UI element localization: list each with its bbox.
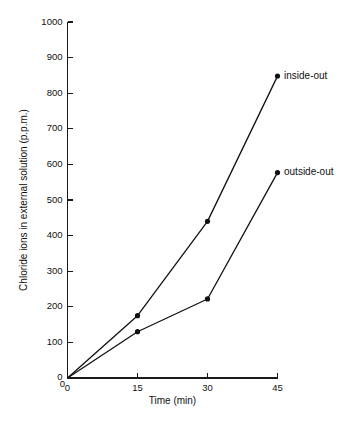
origin-label: 0 (60, 378, 65, 389)
y-tick-label-1000: 1000 (41, 16, 62, 27)
series-line-inside-out (68, 76, 278, 378)
y-axis-tick-labels: 01002003004005006007008009001000 (41, 16, 62, 382)
x-tick-label-30: 30 (202, 382, 213, 393)
data-point-outside-out-30 (205, 296, 210, 301)
data-point-inside-out-45 (275, 74, 280, 79)
series-labels: inside-outoutside-out (284, 70, 334, 177)
y-tick-label-700: 700 (47, 122, 63, 133)
series-label-inside-out: inside-out (284, 70, 328, 81)
x-tick-label-15: 15 (132, 382, 143, 393)
axis-tick-marks (68, 22, 278, 378)
y-tick-label-200: 200 (47, 300, 63, 311)
x-axis-tick-labels: 0153045 (65, 382, 283, 393)
data-point-inside-out-30 (205, 219, 210, 224)
x-axis-title: Time (min) (149, 395, 196, 406)
y-tick-label-300: 300 (47, 265, 63, 276)
y-axis-title: Chloride ions in external solution (p.p.… (18, 109, 29, 291)
y-tick-label-500: 500 (47, 194, 63, 205)
y-tick-label-600: 600 (47, 158, 63, 169)
x-tick-label-0: 0 (65, 382, 70, 393)
chart-figure: 01002003004005006007008009001000 0153045… (0, 0, 358, 429)
series-label-outside-out: outside-out (284, 166, 334, 177)
series-markers (135, 74, 280, 335)
y-tick-label-400: 400 (47, 229, 63, 240)
y-tick-label-800: 800 (47, 87, 63, 98)
data-point-outside-out-15 (135, 329, 140, 334)
series-lines (68, 76, 278, 378)
x-tick-label-45: 45 (272, 382, 283, 393)
data-point-outside-out-45 (275, 170, 280, 175)
data-point-inside-out-15 (135, 313, 140, 318)
line-chart: 01002003004005006007008009001000 0153045… (0, 0, 358, 429)
y-tick-label-900: 900 (47, 51, 63, 62)
series-line-outside-out (68, 173, 278, 378)
y-tick-label-100: 100 (47, 336, 63, 347)
